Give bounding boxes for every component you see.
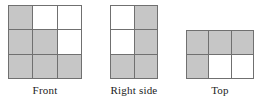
grid-cell bbox=[9, 30, 32, 53]
grid-cell bbox=[111, 30, 134, 53]
grid-cell bbox=[232, 55, 253, 78]
grid-cell bbox=[187, 55, 208, 78]
grid-cell bbox=[209, 55, 230, 78]
grid-cell bbox=[9, 55, 32, 78]
grid-cell bbox=[135, 55, 158, 78]
grid-cell bbox=[58, 30, 81, 53]
top-view-label: Top bbox=[175, 84, 262, 97]
grid-cell bbox=[9, 6, 32, 29]
grid-cell bbox=[111, 6, 134, 29]
grid-cell bbox=[58, 6, 81, 29]
grid-cell bbox=[187, 31, 208, 54]
front-view-label: Front bbox=[0, 84, 90, 97]
grid-cell bbox=[135, 6, 158, 29]
grid-cell bbox=[33, 30, 56, 53]
grid-cell bbox=[33, 55, 56, 78]
front-view-grid bbox=[8, 5, 82, 79]
top-view-grid bbox=[186, 30, 254, 79]
grid-cell bbox=[33, 6, 56, 29]
right-side-view-label: Right side bbox=[89, 84, 179, 97]
grid-cell bbox=[209, 31, 230, 54]
right-side-view-grid bbox=[110, 5, 158, 79]
grid-cell bbox=[111, 55, 134, 78]
grid-cell bbox=[58, 55, 81, 78]
grid-cell bbox=[232, 31, 253, 54]
grid-cell bbox=[135, 30, 158, 53]
